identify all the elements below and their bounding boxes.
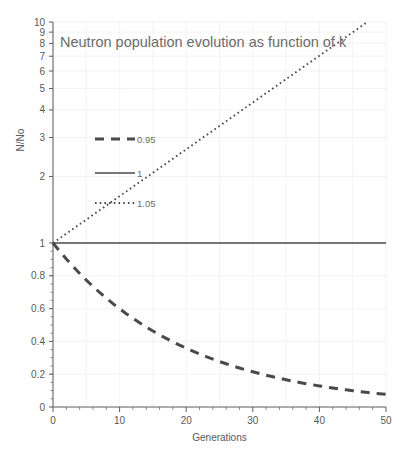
chart-title: Neutron population evolution as function…	[60, 34, 347, 50]
y-tick-label: 0.8	[31, 270, 45, 281]
x-axis: 01020304050Generations	[50, 407, 392, 443]
gridlines	[53, 22, 386, 407]
y-tick-label: 0.2	[31, 369, 45, 380]
legend-label: 1.05	[137, 198, 156, 209]
y-tick-label: 9	[39, 27, 45, 38]
y-tick-label: 8	[39, 38, 45, 49]
y-tick-label: 2	[39, 171, 45, 182]
legend-label: 1	[137, 168, 142, 179]
y-axis: 109876543210.80.60.40.20N/No	[15, 17, 53, 413]
y-tick-label: 5	[39, 83, 45, 94]
x-tick-label: 30	[247, 415, 259, 426]
y-tick-label: 7	[39, 51, 45, 62]
x-tick-label: 10	[114, 415, 126, 426]
x-tick-label: 40	[314, 415, 326, 426]
y-tick-label: 4	[39, 104, 45, 115]
y-tick-label: 1	[39, 238, 45, 249]
x-tick-label: 0	[50, 415, 56, 426]
neutron-population-chart: 109876543210.80.60.40.20N/No01020304050G…	[0, 0, 412, 459]
x-axis-title: Generations	[192, 432, 246, 443]
x-tick-label: 50	[380, 415, 392, 426]
chart-container: 109876543210.80.60.40.20N/No01020304050G…	[0, 0, 412, 459]
y-tick-label: 0	[39, 402, 45, 413]
legend: 0.9511.05	[95, 134, 156, 209]
y-tick-label: 3	[39, 132, 45, 143]
y-tick-label: 0.6	[31, 303, 45, 314]
y-tick-label: 0.4	[31, 336, 45, 347]
series-line-k-1-05	[53, 22, 367, 243]
y-tick-label: 6	[39, 66, 45, 77]
legend-label: 0.95	[137, 134, 156, 145]
x-tick-label: 20	[181, 415, 193, 426]
legend-item[interactable]: 0.95	[95, 134, 156, 145]
y-axis-title: N/No	[15, 128, 26, 151]
